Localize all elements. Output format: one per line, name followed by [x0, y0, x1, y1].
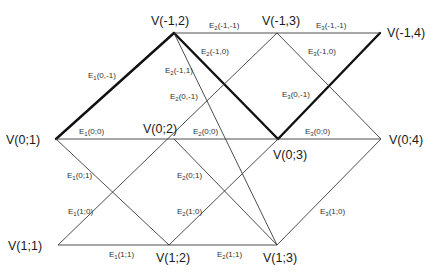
vertex-label: V(0;2): [143, 122, 177, 136]
edge-label: E3(0,-1): [282, 90, 310, 100]
vertex-label: V(-1,4): [387, 26, 425, 40]
edge-label: E2(-1,1): [165, 66, 193, 76]
vertex-label: V(0;3): [273, 148, 307, 162]
edge-label: E3(1;0): [320, 207, 345, 217]
vertex-label: V(-1,3): [262, 14, 300, 28]
edge-label: E1(1;1): [109, 250, 134, 260]
vertex-label: V(-1,2): [151, 14, 189, 28]
edge-label: E2(-1,0): [201, 47, 229, 57]
vertex-label: V(1;3): [263, 251, 297, 265]
edge-label: E1(0,-1): [88, 71, 116, 81]
edge-label: E2(0,-1): [170, 92, 198, 102]
edge-label: E3(-1,0): [308, 47, 336, 57]
edge-label: E2(-1,-1): [209, 21, 240, 31]
edge-label: E2(1;1): [217, 250, 242, 260]
vertex-label: V(1;1): [8, 239, 42, 253]
edge-labels-layer: E1(0,-1)E1(0;0)E1(0;1)E1(1;0)E1(1;1)E2(-…: [67, 21, 347, 260]
edge-label: E1(1;0): [68, 207, 93, 217]
edge-label: E3(0;0): [305, 127, 330, 137]
edge-label: E2(0;0): [193, 127, 218, 137]
edge-label: E1(0;0): [79, 127, 104, 137]
edge-label: E2(1;0): [177, 207, 202, 217]
edge-v_0_1-v_1_2: [56, 139, 169, 245]
vertex-label: V(0;4): [389, 133, 423, 147]
edge-label: E3(-1,-1): [316, 21, 347, 31]
edge-label: E2(0;1): [177, 171, 202, 181]
lattice-diagram: E1(0,-1)E1(0;0)E1(0;1)E1(1;0)E1(1;1)E2(-…: [0, 0, 434, 280]
vertex-label: V(1;2): [156, 251, 190, 265]
vertex-label: V(0;1): [6, 133, 40, 147]
edge-label: E1(0;1): [67, 171, 92, 181]
